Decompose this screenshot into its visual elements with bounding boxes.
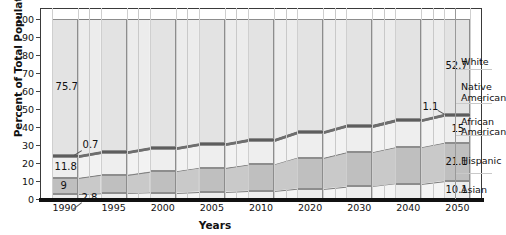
- bar-segment-native-american: [346, 125, 372, 127]
- bar-edge-gridline: [150, 8, 151, 199]
- bar-edge-gridline: [274, 8, 275, 199]
- vertical-gridline: [286, 8, 287, 199]
- bar-segment-african-american: [395, 121, 421, 147]
- bar-edge-gridline: [225, 8, 226, 199]
- bar-segment-white: [346, 19, 372, 125]
- x-tick-label: 2050: [445, 202, 469, 213]
- y-tick-label: 80: [0, 50, 34, 61]
- bar-segment-native-american: [199, 143, 225, 145]
- bar-segment-hispanic: [346, 152, 372, 186]
- bar-segment-native-american: [248, 139, 274, 141]
- y-tick-label: 40: [0, 122, 34, 133]
- bar-segment-african-american: [248, 141, 274, 165]
- legend-label-native-american: NativeAmerican: [461, 82, 506, 103]
- bar-segment-african-american: [199, 145, 225, 168]
- bar-segment-native-american: [101, 151, 127, 153]
- bar-edge-gridline: [346, 8, 347, 199]
- bar-segment-african-american: [101, 153, 127, 175]
- x-tick-label: 1995: [102, 202, 126, 213]
- vertical-gridline: [335, 8, 336, 199]
- x-tick-label: 2020: [298, 202, 322, 213]
- x-axis-title: Years: [0, 219, 430, 231]
- bar-edge-gridline: [323, 8, 324, 199]
- y-tick-label: 30: [0, 140, 34, 151]
- bar-segment-hispanic: [199, 168, 225, 192]
- bar-segment-white: [199, 19, 225, 143]
- vertical-gridline: [89, 8, 90, 199]
- bar-segment-hispanic: [101, 175, 127, 194]
- label-african-american-1990: 11.8: [55, 161, 77, 172]
- vertical-gridline: [138, 8, 139, 199]
- label-asian-1990: 2.8: [82, 192, 98, 203]
- y-tick-label: 20: [0, 158, 34, 169]
- bar-segment-white: [297, 19, 323, 131]
- bar-edge-gridline: [52, 8, 53, 199]
- legend-separator: [455, 173, 492, 174]
- bar-segment-native-american: [395, 119, 421, 121]
- x-tick-label: 2030: [347, 202, 371, 213]
- y-tick-label: 10: [0, 176, 34, 187]
- bar-edge-gridline: [297, 8, 298, 199]
- label-native-american-2050: 1.1: [422, 101, 438, 112]
- x-tick-label: 2000: [151, 202, 175, 213]
- label-white-1990: 75.7: [56, 81, 78, 92]
- bar-edge-gridline: [127, 8, 128, 199]
- vertical-gridline: [236, 8, 237, 199]
- bar-edge-gridline: [101, 8, 102, 199]
- bar-segment-hispanic: [150, 171, 176, 192]
- bar-segment-native-american: [150, 147, 176, 149]
- vertical-gridline: [384, 8, 385, 199]
- y-tick-label: 90: [0, 32, 34, 43]
- bar-segment-asian: [395, 184, 421, 199]
- bar-segment-white: [101, 19, 127, 151]
- legend-label-hispanic: Hispanic: [461, 156, 501, 167]
- y-tick-label: 50: [0, 104, 34, 115]
- label-hispanic-1990: 9: [61, 180, 67, 191]
- legend-label-white: White: [461, 57, 489, 68]
- y-tick-label: 60: [0, 86, 34, 97]
- bar-segment-african-american: [346, 127, 372, 153]
- label-native-american-1990: 0.7: [83, 139, 99, 150]
- bar-edge-gridline: [372, 8, 373, 199]
- bar-segment-hispanic: [248, 164, 274, 190]
- bar-segment-native-american: [297, 131, 323, 133]
- bar-edge-gridline: [248, 8, 249, 199]
- x-tick-label: 2005: [200, 202, 224, 213]
- bar-segment-white: [395, 19, 421, 119]
- legend-divider: [455, 8, 456, 199]
- bar-edge-gridline: [176, 8, 177, 199]
- bar-edge-gridline: [444, 8, 445, 199]
- y-tick-label: 100: [0, 14, 34, 25]
- bar-edge-gridline: [199, 8, 200, 199]
- bar-edge-gridline: [78, 8, 79, 199]
- legend-separator: [455, 69, 492, 70]
- bar-edge-gridline: [395, 8, 396, 199]
- x-tick-label: 2010: [249, 202, 273, 213]
- legend: WhiteNativeAmericanAfricanAmericanHispan…: [455, 8, 492, 199]
- legend-separator: [455, 135, 492, 136]
- y-tick-label: 70: [0, 68, 34, 79]
- bar-segment-hispanic: [395, 147, 421, 183]
- vertical-gridline: [187, 8, 188, 199]
- bar-segment-white: [248, 19, 274, 139]
- legend-label-asian: Asian: [461, 185, 487, 196]
- x-tick-label: 2040: [396, 202, 420, 213]
- legend-separator: [455, 103, 492, 104]
- bar-segment-african-american: [150, 149, 176, 172]
- bar-segment-white: [150, 19, 176, 147]
- y-tick-label: 0: [0, 194, 34, 205]
- bar-segment-hispanic: [297, 158, 323, 189]
- bar-segment-african-american: [297, 133, 323, 158]
